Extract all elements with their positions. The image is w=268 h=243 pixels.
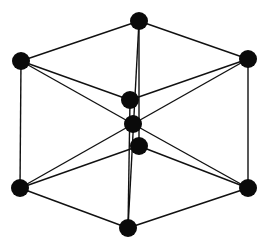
atom-bottom <box>119 219 137 237</box>
atom-lower-right <box>239 179 257 197</box>
bond-top-upper-left <box>21 21 139 61</box>
lattice-diagram <box>0 0 268 243</box>
bond-upper-right-center <box>133 59 248 124</box>
bond-lower-right-center <box>133 124 248 188</box>
atom-upper-right <box>239 50 257 68</box>
atom-lower-left <box>11 179 29 197</box>
atom-center <box>124 115 142 133</box>
bond-upper-left-center <box>21 61 133 124</box>
bond-upper-left-lower-left <box>20 61 21 188</box>
atom-center-upper <box>121 91 139 109</box>
bond-lower-right-bottom <box>128 188 248 228</box>
atom-center-lower <box>130 137 148 155</box>
bond-upper-right-center-upper <box>130 59 248 100</box>
atoms <box>11 12 257 237</box>
bond-lower-right-center-lower <box>139 146 248 188</box>
bond-upper-left-center-upper <box>21 61 130 100</box>
bond-lower-left-center <box>20 124 133 188</box>
atom-top <box>130 12 148 30</box>
bond-lower-left-center-lower <box>20 146 139 188</box>
bond-top-upper-right <box>139 21 248 59</box>
bond-lower-left-bottom <box>20 188 128 228</box>
atom-upper-left <box>12 52 30 70</box>
